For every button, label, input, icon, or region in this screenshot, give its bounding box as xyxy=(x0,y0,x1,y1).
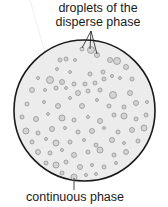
droplet xyxy=(59,115,65,121)
droplet xyxy=(115,162,118,165)
droplet xyxy=(93,81,97,85)
droplet xyxy=(58,58,62,62)
droplet xyxy=(94,143,98,147)
droplet xyxy=(130,128,135,133)
droplet xyxy=(128,91,133,96)
droplet xyxy=(36,131,40,135)
disperse-label-line2: disperse phase xyxy=(28,15,168,29)
droplet xyxy=(110,138,115,143)
droplet xyxy=(64,127,67,130)
droplet xyxy=(88,47,95,54)
droplet xyxy=(110,92,117,99)
droplet xyxy=(76,91,81,96)
droplet xyxy=(136,139,140,143)
droplet xyxy=(47,77,54,84)
disperse-phase-label: droplets of the disperse phase xyxy=(0,1,168,29)
disperse-label-line1: droplets of the xyxy=(28,1,168,15)
droplet xyxy=(97,147,103,153)
droplet xyxy=(64,57,68,61)
droplet xyxy=(53,162,59,168)
droplet xyxy=(74,59,77,62)
droplet xyxy=(87,116,90,119)
droplet xyxy=(72,153,77,158)
droplet xyxy=(95,173,98,176)
droplet xyxy=(85,174,88,177)
continuous-phase-circle xyxy=(14,40,155,181)
droplet xyxy=(72,82,76,86)
droplet xyxy=(108,58,113,63)
droplet xyxy=(64,160,68,164)
droplet xyxy=(45,138,48,141)
droplet xyxy=(68,140,72,144)
droplet xyxy=(65,87,68,90)
droplet xyxy=(107,104,111,108)
droplet xyxy=(43,101,46,104)
droplet xyxy=(111,75,114,78)
droplet xyxy=(103,127,106,130)
droplet xyxy=(86,150,90,154)
droplet xyxy=(48,151,52,155)
emulsion-diagram xyxy=(0,0,168,207)
droplet xyxy=(61,149,64,152)
droplet xyxy=(20,115,24,119)
droplet xyxy=(130,77,134,81)
droplet xyxy=(102,77,106,81)
droplet xyxy=(25,102,29,106)
droplet xyxy=(34,117,39,122)
droplet xyxy=(141,125,147,131)
droplet xyxy=(91,164,94,167)
droplet xyxy=(37,77,40,80)
droplet xyxy=(23,128,29,134)
droplet xyxy=(76,130,80,134)
droplet xyxy=(60,80,65,85)
droplet xyxy=(119,77,122,80)
droplet xyxy=(146,101,149,104)
droplet xyxy=(30,88,35,93)
droplet xyxy=(102,165,106,169)
droplet xyxy=(83,82,87,86)
droplet xyxy=(60,171,64,175)
droplet xyxy=(83,139,86,142)
droplet xyxy=(44,161,48,165)
continuous-phase-label: continuous phase xyxy=(0,190,150,204)
droplet xyxy=(69,97,72,100)
droplet xyxy=(53,140,59,146)
droplet xyxy=(124,150,129,155)
droplet xyxy=(90,129,95,134)
droplet xyxy=(123,142,126,145)
droplet xyxy=(134,117,138,121)
droplet xyxy=(72,118,76,122)
droplet xyxy=(44,89,47,92)
droplet xyxy=(96,99,99,102)
droplet xyxy=(114,58,121,65)
droplet xyxy=(116,130,120,134)
droplet xyxy=(134,101,139,106)
droplet xyxy=(54,86,58,90)
droplet xyxy=(144,113,148,117)
droplet xyxy=(86,89,90,93)
droplet xyxy=(30,140,34,144)
droplet xyxy=(36,150,41,155)
droplet xyxy=(69,71,72,74)
droplet xyxy=(47,113,50,116)
droplet xyxy=(56,104,61,109)
droplet xyxy=(122,105,126,109)
droplet xyxy=(78,165,83,170)
droplet xyxy=(124,65,129,70)
droplet xyxy=(50,127,55,132)
droplet xyxy=(98,88,102,92)
droplet xyxy=(88,72,92,76)
droplet xyxy=(101,70,105,74)
droplet xyxy=(112,113,116,117)
droplet xyxy=(121,113,127,119)
droplet xyxy=(56,68,59,71)
droplet xyxy=(80,104,85,109)
droplet xyxy=(98,119,103,124)
droplet xyxy=(112,153,116,157)
